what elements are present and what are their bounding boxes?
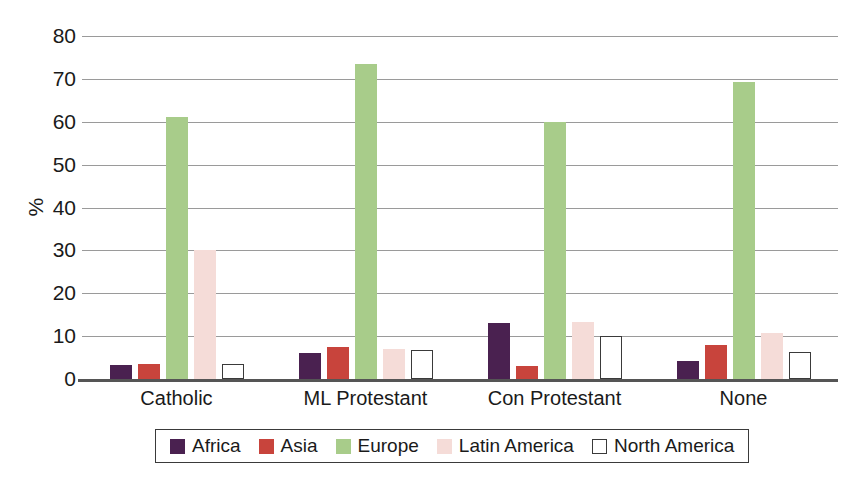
bar-chart: % 01020304050607080 CatholicML Protestan…: [0, 0, 858, 494]
y-axis-tick-label: 10: [30, 325, 76, 346]
y-axis-tick-label: 20: [30, 282, 76, 303]
y-axis-tick-labels: 01020304050607080: [0, 0, 76, 494]
bar-north-america-none: [789, 352, 811, 379]
legend-label: Africa: [192, 435, 241, 457]
legend-swatch-icon: [259, 439, 274, 454]
legend-label: North America: [614, 435, 734, 457]
legend-label: Asia: [281, 435, 318, 457]
bar-group: [299, 36, 433, 379]
bar-africa-none: [677, 361, 699, 379]
y-axis-tick-label: 70: [30, 68, 76, 89]
legend-swatch-icon: [437, 439, 452, 454]
y-axis-tick-label: 60: [30, 111, 76, 132]
legend-item-north-america[interactable]: North America: [592, 435, 734, 457]
legend-item-latin-america[interactable]: Latin America: [437, 435, 574, 457]
legend-item-africa[interactable]: Africa: [170, 435, 241, 457]
bar-europe-con-protestant: [544, 122, 566, 379]
plot-area: [82, 36, 838, 379]
legend-swatch-icon: [592, 439, 607, 454]
bar-africa-con-protestant: [488, 323, 510, 379]
legend-label: Latin America: [459, 435, 574, 457]
legend-item-asia[interactable]: Asia: [259, 435, 318, 457]
chart-legend: AfricaAsiaEuropeLatin AmericaNorth Ameri…: [155, 429, 749, 463]
y-axis-tick-label: 40: [30, 197, 76, 218]
bar-latin-america-ml-protestant: [383, 349, 405, 379]
bar-europe-none: [733, 82, 755, 379]
bar-africa-catholic: [110, 365, 132, 379]
x-axis-tick-label: Catholic: [82, 387, 271, 410]
bar-latin-america-con-protestant: [572, 322, 594, 379]
y-axis-tick-label: 0: [30, 368, 76, 389]
bar-europe-catholic: [166, 117, 188, 379]
bar-latin-america-catholic: [194, 250, 216, 379]
x-axis-tick-label: Con Protestant: [460, 387, 649, 410]
bar-africa-ml-protestant: [299, 353, 321, 379]
bar-group: [677, 36, 811, 379]
bar-asia-catholic: [138, 364, 160, 379]
bar-north-america-ml-protestant: [411, 350, 433, 379]
y-axis-tick-label: 30: [30, 239, 76, 260]
x-axis-tick-label: ML Protestant: [271, 387, 460, 410]
bar-asia-none: [705, 345, 727, 379]
legend-swatch-icon: [170, 439, 185, 454]
bar-north-america-con-protestant: [600, 336, 622, 379]
legend-swatch-icon: [336, 439, 351, 454]
x-axis-tick-label: None: [649, 387, 838, 410]
x-axis-line: [78, 379, 838, 382]
bar-asia-ml-protestant: [327, 347, 349, 379]
legend-item-europe[interactable]: Europe: [336, 435, 419, 457]
y-axis-tick-label: 80: [30, 25, 76, 46]
bar-north-america-catholic: [222, 364, 244, 379]
legend-label: Europe: [358, 435, 419, 457]
bar-group: [488, 36, 622, 379]
bar-group: [110, 36, 244, 379]
bar-europe-ml-protestant: [355, 64, 377, 379]
bar-latin-america-none: [761, 333, 783, 379]
y-axis-tick-label: 50: [30, 154, 76, 175]
bar-asia-con-protestant: [516, 366, 538, 379]
